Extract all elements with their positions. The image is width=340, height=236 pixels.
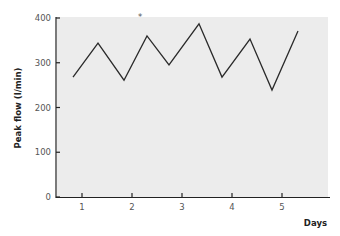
asterisk-annotation: * bbox=[138, 12, 142, 22]
y-tick-label: 400 bbox=[35, 13, 51, 23]
peak-flow-chart: 0100200300400 12345 * Peak flow (l/min) … bbox=[0, 0, 340, 236]
x-tick-label: 4 bbox=[229, 202, 234, 212]
y-tick-label: 100 bbox=[35, 147, 51, 157]
y-axis-label: Peak flow (l/min) bbox=[13, 67, 23, 148]
x-tick-label: 5 bbox=[279, 202, 284, 212]
x-axis-label: Days bbox=[304, 218, 327, 228]
y-tick-label: 0 bbox=[46, 192, 51, 202]
x-tick-label: 2 bbox=[129, 202, 134, 212]
x-tick-label: 1 bbox=[79, 202, 84, 212]
y-tick-label: 300 bbox=[35, 58, 51, 68]
x-tick-label: 3 bbox=[179, 202, 184, 212]
y-tick-label: 200 bbox=[35, 103, 51, 113]
